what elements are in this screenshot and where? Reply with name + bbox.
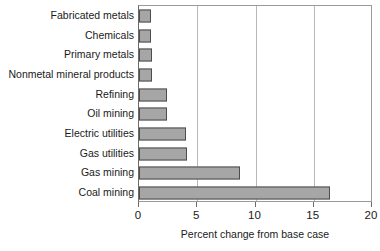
- bar: [139, 88, 167, 101]
- bar: [139, 68, 152, 81]
- bar-row: [139, 183, 371, 203]
- bar-row: [139, 26, 371, 46]
- x-tick: [313, 202, 314, 207]
- bar: [139, 29, 151, 42]
- bar: [139, 167, 240, 180]
- x-tick-label: 0: [118, 208, 158, 222]
- bar: [139, 9, 151, 22]
- category-axis-labels: Fabricated metalsChemicalsPrimary metals…: [0, 5, 134, 202]
- x-tick-label: 5: [176, 208, 216, 222]
- bar-row: [139, 105, 371, 125]
- x-tick: [138, 202, 139, 207]
- category-label: Fabricated metals: [0, 9, 134, 21]
- x-tick: [371, 202, 372, 207]
- bar: [139, 108, 167, 121]
- bar-row: [139, 85, 371, 105]
- bar-chart: Fabricated metalsChemicalsPrimary metals…: [0, 0, 380, 251]
- bar: [139, 49, 152, 62]
- category-label: Gas mining: [0, 166, 134, 178]
- bar-row: [139, 45, 371, 65]
- bar-row: [139, 164, 371, 184]
- bar-row: [139, 144, 371, 164]
- category-label: Nonmetal mineral products: [0, 68, 134, 80]
- category-label: Gas utilities: [0, 147, 134, 159]
- category-label: Chemicals: [0, 29, 134, 41]
- x-axis-tick-labels: 05101520: [0, 208, 380, 224]
- category-label: Coal mining: [0, 186, 134, 198]
- category-label: Electric utilities: [0, 127, 134, 139]
- x-tick-label: 10: [235, 208, 275, 222]
- bar-row: [139, 65, 371, 85]
- category-label: Refining: [0, 88, 134, 100]
- bar: [139, 187, 330, 200]
- plot-area: [138, 5, 372, 202]
- category-label: Primary metals: [0, 48, 134, 60]
- bar-row: [139, 124, 371, 144]
- x-tick: [196, 202, 197, 207]
- x-tick-label: 20: [351, 208, 380, 222]
- x-axis-title: Percent change from base case: [138, 228, 372, 241]
- x-tick-label: 15: [293, 208, 333, 222]
- bar: [139, 128, 186, 141]
- bar-row: [139, 6, 371, 26]
- x-tick: [255, 202, 256, 207]
- category-label: Oil mining: [0, 107, 134, 119]
- bar: [139, 147, 187, 160]
